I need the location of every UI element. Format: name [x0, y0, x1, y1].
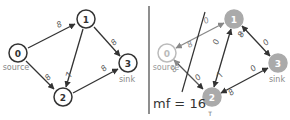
residual-node-0: 0 — [158, 44, 176, 62]
residual-node-3: 3 — [269, 54, 287, 72]
residual-source-caption: source — [153, 63, 180, 72]
residual-node-1-mark: T — [238, 30, 243, 37]
max-flow-diagram: 8 8 7 8 8 0 source 1 2 3 sink — [0, 0, 290, 120]
node-0: 0 — [9, 44, 27, 62]
node-2: 2 — [54, 88, 72, 106]
svg-text:1: 1 — [83, 15, 89, 25]
source-caption: source — [3, 63, 30, 72]
label-1-0: 8 — [186, 39, 195, 49]
edge-label-2-3: 8 — [99, 63, 109, 73]
residual-sink-caption: sink — [269, 75, 285, 84]
sink-caption: sink — [119, 75, 135, 84]
label-2-3: 0 — [249, 63, 259, 73]
node-3: 3 — [119, 54, 137, 72]
label-0-1: 0 — [202, 16, 210, 26]
edge-0-1 — [28, 24, 75, 48]
label-1-2: 0 — [211, 38, 221, 45]
svg-text:3: 3 — [275, 59, 281, 69]
label-1-3: 0 — [261, 37, 271, 47]
svg-text:0: 0 — [164, 49, 170, 59]
node-1: 1 — [77, 10, 95, 28]
svg-text:2: 2 — [209, 93, 215, 103]
max-flow-value: mf = 16 — [153, 96, 206, 111]
edge-label-0-1: 8 — [55, 20, 63, 30]
residual-node-2-mark: T — [207, 110, 212, 117]
label-3-2: 8 — [227, 87, 237, 97]
edge-0-2 — [26, 61, 54, 89]
svg-text:2: 2 — [60, 93, 66, 103]
edge-label-1-2: 7 — [64, 70, 74, 78]
edge-2-3 — [73, 69, 118, 93]
svg-text:0: 0 — [15, 49, 21, 59]
edge-label-0-2: 8 — [43, 72, 53, 82]
label-2-1: 7 — [215, 70, 225, 78]
svg-text:3: 3 — [125, 59, 131, 69]
residual-node-1: 1 — [225, 10, 243, 28]
svg-text:1: 1 — [231, 15, 237, 25]
left-flow-network: 8 8 7 8 8 0 source 1 2 3 sink — [3, 10, 137, 106]
residual-network: 0 8 0 8 0 7 0 8 0 8 0 source 1 T 2 T 3 s… — [153, 10, 287, 117]
